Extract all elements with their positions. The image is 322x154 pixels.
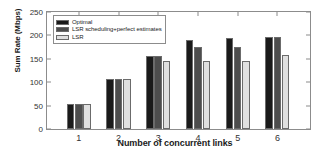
x-axis-title: Number of concurrent links bbox=[45, 138, 305, 148]
y-tick-label: 150 bbox=[30, 54, 47, 63]
legend-swatch bbox=[56, 35, 69, 40]
y-tick-mark bbox=[306, 82, 310, 83]
y-tick-mark bbox=[306, 58, 310, 59]
y-tick-mark bbox=[306, 105, 310, 106]
bar bbox=[163, 61, 171, 129]
y-tick-mark bbox=[47, 105, 51, 106]
bar bbox=[115, 79, 123, 129]
legend-item: Optimal bbox=[56, 19, 162, 26]
x-tick-mark bbox=[237, 12, 238, 16]
y-tick-mark bbox=[47, 129, 51, 130]
legend-label: LSR bbox=[72, 34, 84, 41]
bar bbox=[83, 104, 91, 129]
bar bbox=[75, 104, 83, 129]
bar bbox=[265, 37, 273, 129]
y-tick-mark bbox=[306, 129, 310, 130]
bar bbox=[186, 40, 194, 129]
bar bbox=[154, 56, 162, 129]
y-tick-label: 250 bbox=[30, 8, 47, 17]
y-tick-mark bbox=[306, 12, 310, 13]
x-tick-label: 6 bbox=[275, 129, 280, 143]
bar bbox=[194, 47, 202, 129]
y-tick-mark bbox=[47, 82, 51, 83]
bar bbox=[234, 47, 242, 129]
bar bbox=[226, 38, 234, 129]
chart-legend: OptimalLSR scheduling+perfect estimatesL… bbox=[53, 15, 166, 44]
x-tick-label: 1 bbox=[76, 129, 81, 143]
y-tick-mark bbox=[306, 35, 310, 36]
plot-area: 050100150200250 123456 OptimalLSR schedu… bbox=[46, 11, 311, 130]
x-tick-label: 3 bbox=[156, 129, 161, 143]
x-tick-label: 4 bbox=[195, 129, 200, 143]
x-tick-label: 5 bbox=[235, 129, 240, 143]
bar bbox=[146, 56, 154, 129]
bar bbox=[106, 79, 114, 129]
bar bbox=[242, 61, 250, 129]
y-axis-title: Sum Rate (Mbps) bbox=[13, 0, 22, 96]
x-tick-mark bbox=[277, 12, 278, 16]
y-tick-label: 0 bbox=[39, 125, 47, 134]
y-tick-label: 200 bbox=[30, 31, 47, 40]
x-tick-label: 2 bbox=[116, 129, 121, 143]
bar bbox=[67, 104, 75, 129]
y-tick-label: 100 bbox=[30, 78, 47, 87]
bar bbox=[282, 55, 290, 129]
bar bbox=[123, 79, 131, 129]
y-tick-label: 50 bbox=[34, 101, 47, 110]
bar bbox=[274, 37, 282, 129]
legend-item: LSR scheduling+perfect estimates bbox=[56, 26, 162, 33]
y-tick-mark bbox=[47, 58, 51, 59]
legend-swatch bbox=[56, 20, 69, 25]
bar-chart-figure: Sum Rate (Mbps) Number of concurrent lin… bbox=[0, 0, 322, 154]
legend-item: LSR bbox=[56, 34, 162, 41]
legend-label: Optimal bbox=[72, 19, 92, 26]
bar bbox=[203, 61, 211, 129]
y-tick-mark bbox=[47, 35, 51, 36]
legend-swatch bbox=[56, 27, 69, 32]
x-tick-mark bbox=[197, 12, 198, 16]
legend-label: LSR scheduling+perfect estimates bbox=[72, 26, 162, 33]
y-tick-mark bbox=[47, 12, 51, 13]
